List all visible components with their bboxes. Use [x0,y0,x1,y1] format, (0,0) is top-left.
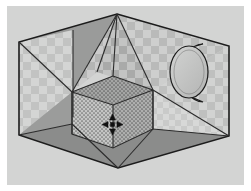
left-wall-faces [19,30,73,135]
render-canvas[interactable] [7,6,244,185]
scene-geometry [7,6,244,185]
3d-modeling-viewport[interactable] [0,0,251,191]
cylinder-cap [170,46,208,98]
